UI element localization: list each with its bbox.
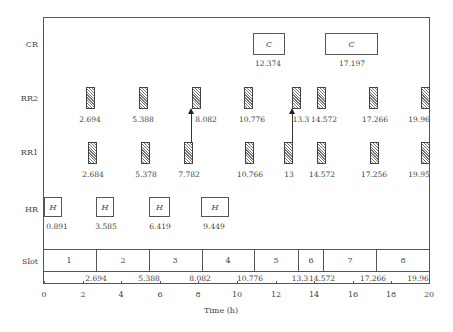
rr1-value: 19.95 [408,170,429,179]
hr-box-label: H [212,203,219,212]
rr1-bar [245,142,254,164]
cr-box: C [253,33,285,55]
slot-bound-value: 13.3 [292,274,309,283]
slot-divider [149,250,150,272]
x-tick-label: 16 [348,290,358,299]
arrow-head-icon [289,108,295,114]
rr1-bar [88,142,97,164]
arrow-line [191,111,192,142]
cr-value: 12.374 [255,59,281,68]
row-label-hr: HR [2,205,38,214]
slot-divider [202,250,203,272]
row-label-rr2: RR2 [2,94,38,103]
slot-label: 8 [400,256,405,265]
rr1-bar [370,142,379,164]
slot-bound-value: 2.694 [85,274,106,283]
slot-label: 1 [66,256,71,265]
hr-value: 3.585 [95,222,116,231]
x-tick [429,281,430,284]
slot-bound-value: 14.572 [309,274,335,283]
rr1-bar [141,142,150,164]
slot-divider [323,250,324,272]
x-tick-label: 4 [118,290,123,299]
rr2-bar [244,87,253,109]
rr2-bar [421,87,430,109]
slot-label: 2 [120,256,125,265]
row-label-slot: Slot [2,257,38,266]
rr1-value: 14.572 [309,170,335,179]
x-tick [83,281,84,284]
rr1-value: 2.684 [82,170,103,179]
hr-value: 9.449 [203,222,224,231]
cr-box-label: C [348,40,354,49]
row-label-rr1: RR1 [2,148,38,157]
rr1-bar [317,142,326,164]
x-tick-label: 2 [80,290,85,299]
x-tick-label: 8 [195,290,200,299]
rr2-bar [192,87,201,109]
x-axis-label: Time (h) [204,306,238,315]
cr-box: C [325,33,378,55]
slot-bound-value: 17.266 [360,274,386,283]
x-tick [353,281,354,284]
rr1-bar [184,142,193,164]
x-tick-label: 18 [386,290,396,299]
hr-box: H [201,197,229,217]
rr1-bar [284,142,293,164]
rr1-value: 17.256 [361,170,387,179]
x-tick [276,281,277,284]
rr1-value: 7.782 [178,170,199,179]
slot-divider [254,250,255,272]
rr1-value: 10.766 [237,170,263,179]
arrow-line [292,111,293,142]
rr2-bar [292,87,301,109]
rr2-value: 2.694 [79,115,100,124]
rr2-bar [139,87,148,109]
slot-divider [298,250,299,272]
x-tick-label: 6 [157,290,162,299]
rr2-bar [369,87,378,109]
x-tick [237,281,238,284]
slot-label: 5 [273,256,278,265]
cr-value: 17.197 [339,59,365,68]
slot-divider [96,250,97,272]
x-tick-label: 20 [424,290,434,299]
slot-bound-value: 19.96 [407,274,428,283]
rr2-value: 8.082 [195,115,216,124]
x-tick [198,281,199,284]
rr2-value: 5.388 [132,115,153,124]
x-tick [160,281,161,284]
rr2-value: 17.266 [362,115,388,124]
rr1-bar [421,142,430,164]
slot-bound-value: 5.388 [138,274,159,283]
rr2-value: 13.3 [293,115,310,124]
x-tick [44,281,45,284]
x-tick [314,281,315,284]
hr-box-label: H [102,203,109,212]
x-tick [121,281,122,284]
rr2-value: 10.776 [239,115,265,124]
slot-label: 7 [347,256,352,265]
x-tick-label: 0 [41,290,46,299]
hr-box: H [96,197,114,217]
x-tick-label: 12 [271,290,281,299]
rr2-bar [86,87,95,109]
rr2-value: 19.96 [408,115,429,124]
row-label-cr: CR [2,40,38,49]
hr-box-label: H [156,203,163,212]
rr1-value: 5.378 [135,170,156,179]
hr-box: H [44,197,62,217]
hr-box: H [149,197,170,217]
hr-value: 6.419 [149,222,170,231]
slot-label: 4 [225,256,230,265]
arrow-head-icon [188,108,194,114]
slot-label: 6 [308,256,313,265]
rr2-bar [317,87,326,109]
cr-box-label: C [266,40,272,49]
slot-row: 1 2 3 4 5 6 7 8 [43,249,430,272]
slot-bound-value: 10.776 [237,274,263,283]
hr-box-label: H [50,203,57,212]
hr-value: 0.891 [46,222,67,231]
x-tick-label: 14 [309,290,319,299]
x-tick-label: 10 [232,290,242,299]
